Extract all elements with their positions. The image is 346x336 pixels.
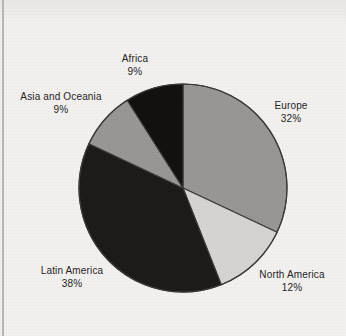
pie-label-north-america-percent: 12% [240,281,344,294]
pie-label-asia-and-oceania: Asia and Oceania 9% [2,90,120,116]
chart-page: Africa 9% Asia and Oceania 9% Europe 32%… [0,0,346,336]
pie-label-asia-and-oceania-name: Asia and Oceania [2,90,120,103]
pie-label-latin-america-name: Latin America [16,264,128,277]
pie-label-latin-america-percent: 38% [16,277,128,290]
pie-label-europe-name: Europe [248,99,334,112]
pie-label-africa-percent: 9% [92,65,178,78]
pie-label-north-america-name: North America [240,268,344,281]
pie-label-africa: Africa 9% [92,52,178,78]
pie-label-north-america: North America 12% [240,268,344,294]
pie-label-europe-percent: 32% [248,112,334,125]
pie-label-africa-name: Africa [92,52,178,65]
pie-label-latin-america: Latin America 38% [16,264,128,290]
pie-label-asia-and-oceania-percent: 9% [2,103,120,116]
pie-label-europe: Europe 32% [248,99,334,125]
